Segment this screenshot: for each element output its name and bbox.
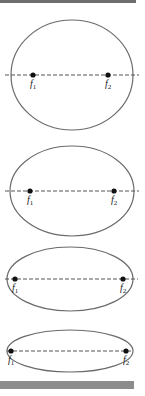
focus-1-label: f1 [27,194,34,207]
focus-2-label: f2 [120,282,127,295]
focus-1-dot [27,188,32,193]
focus-2-dot [120,276,125,281]
focus-1-dot [12,276,17,281]
focus-2-dot [111,188,116,193]
ellipse-3: f1f2 [5,247,138,311]
focus-1-dot [30,72,35,77]
ellipse-1: f1f2 [5,20,139,130]
ellipse-diagram: f1f2f1f2f1f2f1f2 [0,0,145,396]
focus-2-dot [123,348,128,353]
focus-1-label: f1 [30,78,37,91]
ellipse-2: f1f2 [5,146,139,236]
focus-2-dot [105,72,110,77]
focus-2-label: f2 [105,78,112,91]
ellipse-4: f1f2 [7,330,133,372]
focus-2-label: f2 [123,354,130,367]
focus-1-dot [8,348,13,353]
focus-2-label: f2 [111,194,118,207]
focus-1-label: f1 [8,354,15,367]
bottom-rule [0,381,134,389]
